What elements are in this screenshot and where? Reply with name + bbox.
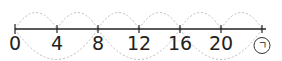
tick-label-20: 20	[209, 33, 233, 53]
tick-label-4: 4	[51, 33, 63, 53]
tick-label-12: 12	[127, 33, 151, 53]
unknown-value-marker: ㄱ	[254, 37, 271, 54]
tick-label-0: 0	[9, 33, 21, 53]
tick-label-16: 16	[168, 33, 192, 53]
tick-label-8: 8	[92, 33, 104, 53]
